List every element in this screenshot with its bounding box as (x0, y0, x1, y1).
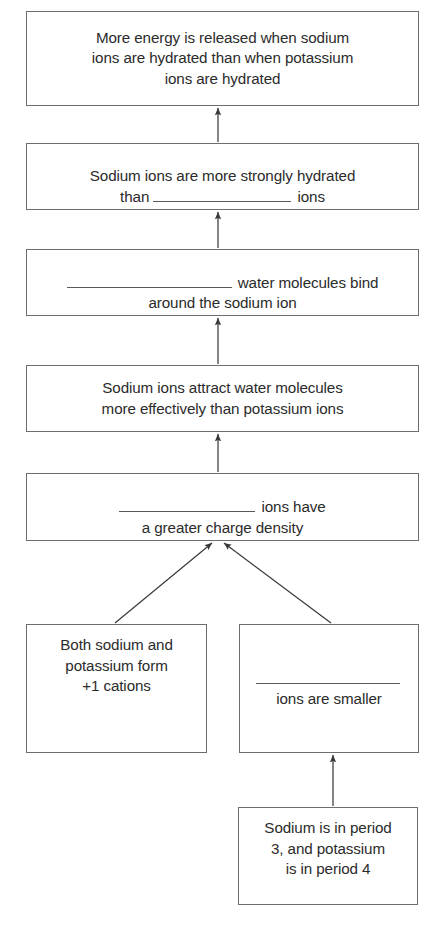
both-form-plus-one-cations-text: Both sodium and potassium form +1 cation… (27, 625, 206, 697)
answer-blank-potassium[interactable] (153, 186, 291, 202)
arrow-smaller-to-charge (224, 543, 331, 623)
flowchart-canvas: More energy is released when sodium ions… (0, 0, 438, 939)
text-after-blank: ions (293, 188, 325, 205)
text-after-blank: ions are smaller (276, 690, 382, 707)
more-energy-released-text: More energy is released when sodium ions… (27, 28, 418, 90)
water-molecules-bind-text: water molecules bind around the sodium i… (27, 251, 418, 314)
sodium-more-strongly-hydrated-box[interactable]: Sodium ions are more strongly hydrated t… (26, 143, 419, 210)
arrow-cations-to-charge (115, 543, 212, 623)
greater-charge-density-text: ions have a greater charge density (27, 476, 418, 539)
sodium-period-three-box[interactable]: Sodium is in period 3, and potassium is … (238, 807, 418, 905)
more-energy-released-box[interactable]: More energy is released when sodium ions… (26, 11, 419, 106)
water-molecules-bind-box[interactable]: water molecules bind around the sodium i… (26, 249, 419, 316)
answer-blank-sodium[interactable] (119, 496, 255, 512)
sodium-attracts-water-box[interactable]: Sodium ions attract water molecules more… (26, 365, 419, 432)
answer-blank-more[interactable] (67, 272, 232, 288)
ions-are-smaller-text: ions are smaller (240, 625, 418, 710)
sodium-attracts-water-text: Sodium ions attract water molecules more… (27, 378, 418, 419)
sodium-more-strongly-hydrated-text: Sodium ions are more strongly hydrated t… (27, 145, 418, 208)
greater-charge-density-box[interactable]: ions have a greater charge density (26, 473, 419, 541)
both-form-plus-one-cations-box[interactable]: Both sodium and potassium form +1 cation… (26, 624, 207, 753)
answer-blank-sodium-smaller[interactable] (256, 668, 400, 684)
sodium-period-three-text: Sodium is in period 3, and potassium is … (239, 808, 417, 880)
ions-are-smaller-box[interactable]: ions are smaller (239, 624, 419, 753)
arrow-layer (0, 0, 438, 939)
